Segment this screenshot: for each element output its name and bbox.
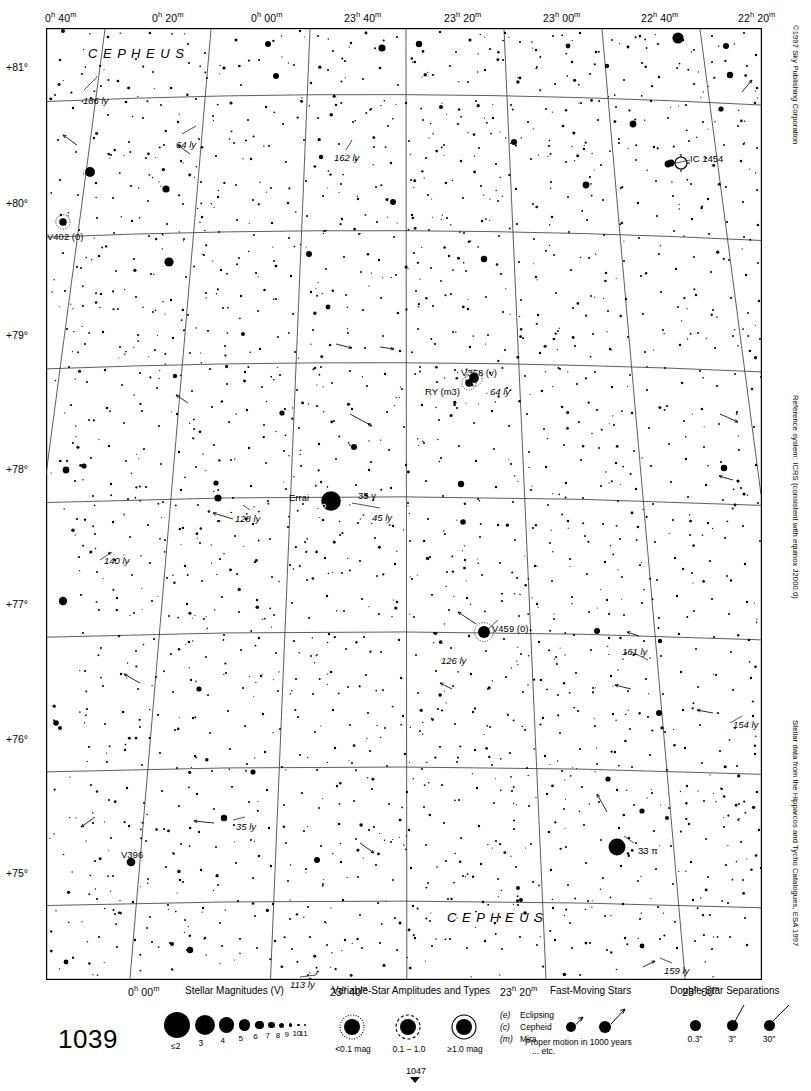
star xyxy=(527,578,529,580)
star xyxy=(75,378,76,379)
star xyxy=(332,709,334,711)
star xyxy=(367,253,370,256)
star xyxy=(533,128,534,129)
star xyxy=(470,240,472,242)
star xyxy=(512,109,514,111)
star xyxy=(291,418,293,420)
star xyxy=(530,489,532,491)
star xyxy=(484,69,486,71)
star xyxy=(130,615,131,616)
star xyxy=(204,52,206,54)
star xyxy=(409,540,411,542)
star xyxy=(737,634,739,636)
star xyxy=(557,330,559,332)
star xyxy=(410,727,411,728)
legend-magnitude-label: 7 xyxy=(265,1031,269,1040)
star xyxy=(606,949,608,951)
star xyxy=(744,917,746,919)
star xyxy=(198,831,200,833)
star xyxy=(524,555,525,556)
star xyxy=(517,77,518,78)
star xyxy=(522,337,524,339)
star xyxy=(612,415,613,416)
star xyxy=(242,687,244,689)
star xyxy=(172,852,173,853)
star xyxy=(746,65,748,67)
star xyxy=(492,104,493,105)
star xyxy=(687,338,688,339)
star xyxy=(414,61,416,63)
star xyxy=(454,723,456,725)
star xyxy=(653,830,655,832)
ra-tick-label-top-3: 23h 40m xyxy=(344,10,381,24)
star xyxy=(620,484,621,485)
star xyxy=(501,367,503,369)
star xyxy=(85,257,87,259)
star xyxy=(302,503,304,505)
star xyxy=(594,628,600,634)
star xyxy=(413,179,416,182)
star xyxy=(708,233,710,235)
star xyxy=(692,413,693,414)
star xyxy=(330,421,333,424)
star xyxy=(341,58,343,60)
star xyxy=(411,57,414,60)
star xyxy=(222,66,225,69)
star xyxy=(415,654,417,656)
star xyxy=(493,448,495,450)
star xyxy=(658,253,660,255)
star xyxy=(191,390,193,392)
star xyxy=(405,265,408,268)
star xyxy=(392,118,394,120)
star xyxy=(497,200,499,202)
star xyxy=(255,272,257,274)
star xyxy=(309,972,310,973)
star xyxy=(327,486,329,488)
star xyxy=(368,285,369,286)
star xyxy=(669,533,670,534)
star xyxy=(104,908,106,910)
star xyxy=(124,354,125,355)
star xyxy=(641,562,642,563)
star xyxy=(458,108,460,110)
star xyxy=(162,185,169,192)
legend-magnitude-label: ≤2 xyxy=(171,1041,180,1051)
star xyxy=(250,485,252,487)
star xyxy=(240,84,242,86)
star xyxy=(287,880,289,882)
star xyxy=(205,758,209,762)
star xyxy=(289,918,291,920)
star xyxy=(405,848,407,850)
star xyxy=(178,194,180,196)
star xyxy=(138,458,139,459)
star xyxy=(557,760,558,761)
star xyxy=(397,84,399,86)
star xyxy=(120,33,122,35)
star xyxy=(671,181,673,183)
star xyxy=(380,184,382,186)
star xyxy=(49,97,52,100)
star xyxy=(150,273,152,275)
star xyxy=(339,803,341,805)
star xyxy=(579,811,581,813)
star xyxy=(573,707,575,709)
star xyxy=(84,343,86,345)
star xyxy=(323,230,325,232)
star xyxy=(160,463,162,465)
star xyxy=(167,829,170,832)
star xyxy=(179,717,180,718)
star xyxy=(247,119,249,121)
star xyxy=(759,338,761,340)
star xyxy=(219,73,220,74)
star xyxy=(742,248,743,249)
star xyxy=(619,538,621,540)
star xyxy=(83,173,84,174)
star xyxy=(517,664,518,665)
star xyxy=(460,160,462,162)
star xyxy=(253,234,255,236)
star xyxy=(293,476,295,478)
star xyxy=(277,336,279,338)
star xyxy=(637,202,639,204)
star xyxy=(554,939,556,941)
star xyxy=(412,217,414,219)
